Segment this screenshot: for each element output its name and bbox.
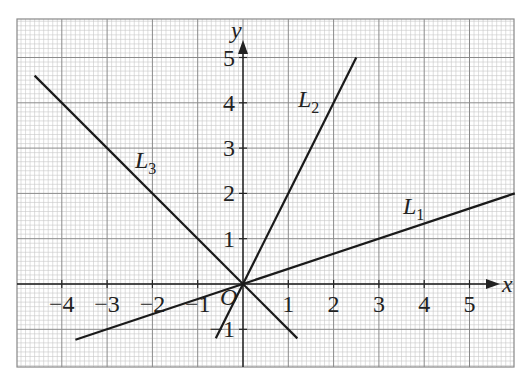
x-tick-label: 1 bbox=[282, 291, 294, 317]
x-axis-arrow-icon bbox=[486, 279, 500, 289]
line-L1 bbox=[75, 193, 514, 339]
x-tick-label: −4 bbox=[49, 291, 75, 317]
x-tick-label: −3 bbox=[94, 291, 120, 317]
line-label-L2: L2 bbox=[297, 86, 319, 116]
line-label-L3: L3 bbox=[134, 147, 156, 177]
x-tick-label: 3 bbox=[373, 291, 385, 317]
y-tick-label: 3 bbox=[223, 135, 235, 161]
y-tick-label: 1 bbox=[223, 226, 235, 252]
y-tick-label: −1 bbox=[209, 316, 235, 342]
x-tick-label: 4 bbox=[418, 291, 430, 317]
y-tick-label: 4 bbox=[223, 90, 235, 116]
line-label-L1: L1 bbox=[402, 193, 424, 223]
x-tick-label: 2 bbox=[328, 291, 340, 317]
y-axis-label: y bbox=[229, 17, 242, 43]
y-tick-label: 5 bbox=[223, 45, 235, 71]
y-tick-label: 2 bbox=[223, 180, 235, 206]
coordinate-grid-figure: −4−3−2−112345−112345 x y O L1 L2 L3 bbox=[0, 0, 526, 374]
x-axis-label: x bbox=[501, 271, 513, 297]
x-tick-label: 5 bbox=[464, 291, 476, 317]
